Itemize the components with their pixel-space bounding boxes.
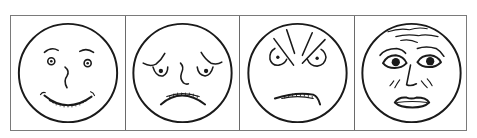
emotion-faces-strip: happy	[10, 15, 467, 131]
right-eyebrow	[80, 50, 94, 53]
left-inner-brow-line	[287, 30, 295, 54]
face-outline	[133, 24, 231, 122]
face-outline	[248, 24, 346, 122]
panel-angry-face: angry	[239, 16, 354, 130]
nose	[407, 65, 417, 85]
sad-face-icon	[126, 16, 239, 130]
forehead-wrinkle-1	[388, 28, 427, 32]
lip-parting-line	[397, 102, 427, 103]
nose	[181, 63, 189, 84]
forehead-wrinkle-2	[396, 35, 438, 37]
forehead-wrinkle-3	[401, 40, 418, 43]
right-cheek-line	[421, 81, 427, 88]
right-inner-brow-line	[302, 33, 312, 56]
happy-face-icon	[11, 16, 125, 130]
panel-happy-face: happy	[11, 16, 125, 130]
left-pupil	[159, 69, 163, 73]
panel-afraid-face: afraid	[354, 16, 468, 130]
right-pupil	[204, 69, 208, 73]
left-dimple	[40, 92, 45, 94]
left-eyebrow	[143, 53, 165, 65]
right-cheek-line-2	[427, 79, 432, 86]
left-cheek-line	[395, 80, 400, 88]
smile-mouth	[44, 96, 91, 106]
grimace-mouth	[275, 94, 320, 105]
left-pupil	[276, 56, 279, 59]
left-pupil	[50, 60, 53, 63]
frown-mouth	[161, 96, 205, 105]
nose	[65, 67, 68, 88]
angry-face-icon	[240, 16, 354, 130]
right-pupil	[315, 57, 318, 60]
afraid-face-icon	[355, 16, 468, 130]
left-pupil	[392, 58, 400, 66]
right-pupil	[86, 62, 89, 65]
right-pupil	[426, 57, 434, 65]
right-outer-brow-line	[302, 40, 325, 64]
left-cheek-line-2	[390, 81, 394, 86]
left-eyebrow	[380, 48, 406, 55]
right-eyebrow	[201, 52, 222, 64]
right-dimple	[91, 92, 95, 96]
panel-sad-face: sad	[125, 16, 239, 130]
left-eyebrow	[44, 49, 58, 53]
